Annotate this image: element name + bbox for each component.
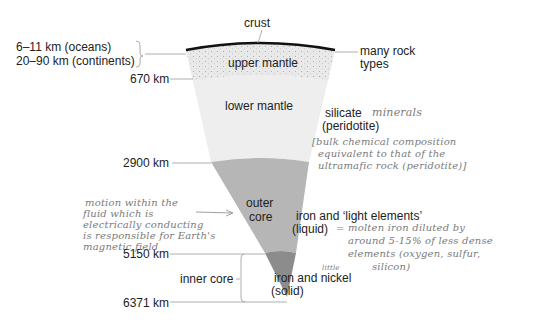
note-motion-line3: electrically conducting [83, 219, 204, 230]
crust-depth-continents: 20–90 km (continents) [16, 54, 135, 68]
note-minerals: minerals [372, 107, 422, 118]
outer-core-composition-line2: (liquid) [292, 222, 328, 236]
depth-2900: 2900 km [123, 156, 169, 170]
note-molten-equals: = [336, 223, 345, 234]
outer-core-label-line2: core [249, 210, 272, 224]
note-motion-line5: magnetic field [83, 241, 158, 252]
note-motion-line2: fluid which is [83, 208, 154, 219]
note-molten-line4: silicon) [372, 261, 410, 272]
crust-composition-line2: types [360, 57, 389, 71]
note-bulk-line2: equivalent to that of the [318, 148, 445, 159]
crust-label: crust [244, 16, 270, 30]
mantle-composition-line1: silicate [325, 106, 362, 120]
note-motion-line4: is responsible for Earth's [83, 230, 216, 241]
note-molten-line2: around 5-15% of less dense [348, 235, 493, 246]
outer-core-label-line1: outer [246, 196, 273, 210]
depth-6371: 6371 km [123, 296, 169, 310]
motion-arrow [196, 212, 232, 213]
upper-mantle-label: upper mantle [228, 56, 298, 70]
mantle-composition-line2: (peridotite) [322, 119, 379, 133]
note-motion-line1: motion within the [85, 197, 178, 208]
outer-core-composition-line1: iron and ‘light elements’ [296, 209, 422, 223]
crust-depth-bracket [136, 41, 143, 67]
note-bulk-line1: [bulk chemical composition [312, 136, 457, 147]
crust-leader [258, 30, 262, 43]
lower-mantle-label: lower mantle [225, 99, 293, 113]
crust-composition-line1: many rock [360, 44, 415, 58]
crust-depth-oceans: 6–11 km (oceans) [16, 40, 111, 54]
note-little: little [322, 263, 340, 274]
note-molten-line3: elements (oxygen, sulfur, [348, 248, 480, 259]
note-bulk-line3: ultramafic rock (peridotite)] [318, 160, 467, 171]
inner-core-composition-line2: (solid) [271, 284, 304, 298]
depth-670: 670 km [130, 72, 169, 86]
note-molten-line1: molten iron diluted by [348, 222, 465, 233]
inner-core-bracket [241, 254, 245, 302]
inner-core-composition-line1: iron and nickel [274, 271, 351, 285]
inner-core-label: inner core [180, 272, 233, 286]
